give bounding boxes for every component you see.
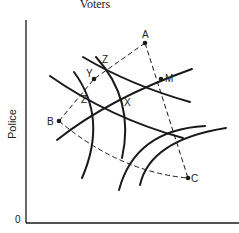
origin-label: 0 [15, 214, 21, 225]
dashed-line-a-c [145, 43, 188, 178]
curve-c-3 [140, 128, 226, 185]
indifference-curves [50, 57, 226, 190]
diagram: Voters Police 0 [0, 0, 239, 233]
label-c: C [191, 173, 198, 184]
curve-a-2 [50, 76, 183, 138]
diagram-title: Voters [0, 0, 190, 12]
curve-a-1 [83, 57, 190, 102]
label-m: M [165, 73, 173, 84]
y-axis-label: Police [6, 102, 18, 146]
label-y: Y [86, 68, 93, 79]
label-z-lower: Z [81, 94, 87, 105]
label-a: A [142, 29, 149, 40]
point-m [159, 77, 164, 82]
point-c [186, 176, 191, 181]
label-z-upper: Z [102, 54, 108, 65]
point-b [57, 119, 62, 124]
diagram-canvas: A M C B Y Z Z X [0, 0, 239, 233]
label-b: B [47, 116, 54, 127]
point-a [143, 41, 148, 46]
label-x: X [124, 97, 131, 108]
